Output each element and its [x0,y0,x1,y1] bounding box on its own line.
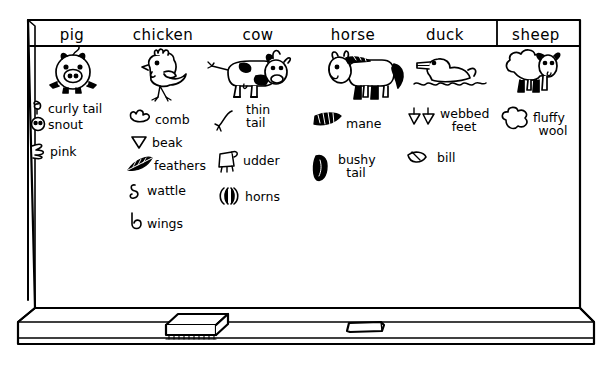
item-label-thin-tail-line2: tail [246,115,266,130]
thin-tail-icon [215,111,232,131]
item-label-bill: bill [437,150,455,165]
sheep-drawing [507,50,560,92]
item-label-mane: mane [346,116,382,131]
item-label-comb: comb [155,112,190,127]
item-label-fluffy-wool-line2: wool [539,123,568,138]
item-label-wings: wings [147,216,183,231]
fluffy-wool-icon [502,107,526,128]
chalkboard-scene: pig chicken cow horse duck sheep curly t… [0,0,604,377]
item-label-wattle: wattle [147,183,186,198]
chalk-ledge [18,308,594,344]
item-label-horns: horns [245,189,280,204]
chicken-drawing [142,49,186,101]
wattle-icon [130,185,138,198]
column-header-pig: pig [60,26,85,44]
board-svg: pig chicken cow horse duck sheep curly t… [0,0,604,377]
item-label-webbed-feet-line2: feet [452,119,477,134]
item-label-udder: udder [243,153,280,168]
item-label-pink: pink [50,144,77,159]
beak-icon [132,137,146,148]
board-frame [28,20,580,308]
column-header-cow: cow [242,26,273,44]
webbed-feet-icon [409,108,434,124]
item-label-feathers: feathers [154,158,206,173]
mane-icon [314,112,341,125]
horse-drawing [327,51,403,99]
item-label-bushy-tail-line2: tail [346,165,366,180]
item-label-snout: snout [48,117,83,132]
pig-drawing [50,47,96,93]
chalk[interactable] [347,322,384,332]
item-label-beak: beak [152,135,183,150]
column-header-chicken: chicken [133,26,194,44]
udder-icon [219,152,237,172]
duck-drawing [414,59,486,85]
horns-icon [220,188,238,204]
bill-icon [408,152,426,162]
column-header-horse: horse [331,26,375,44]
bushy-tail-icon [313,155,327,180]
cow-drawing [208,51,290,97]
pink-scribble-icon [32,144,43,158]
column-header-duck: duck [426,26,464,44]
feathers-icon [128,157,152,170]
item-label-curly-tail: curly tail [48,101,102,116]
wings-icon [132,213,141,229]
column-header-sheep: sheep [512,26,560,44]
comb-icon [131,110,150,121]
snout-icon [32,118,45,131]
